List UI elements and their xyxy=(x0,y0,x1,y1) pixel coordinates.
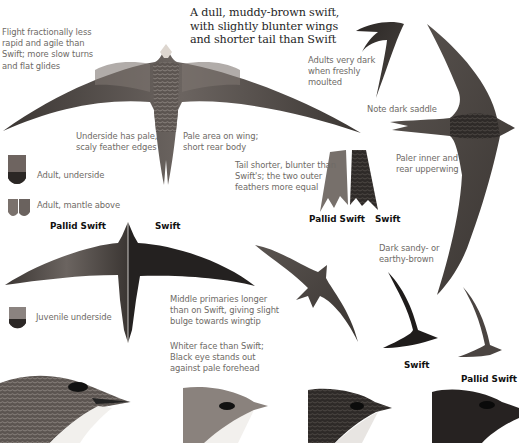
adult-mantle-swatch xyxy=(8,199,30,216)
label-tail-swift: Swift xyxy=(375,214,401,224)
caption-flight: Flight fractionally less rapid and agile… xyxy=(2,27,93,72)
juvenile-underside-swatch xyxy=(9,307,26,328)
caption-whiter-face: Whiter face than Swift; Black eye stands… xyxy=(170,341,264,375)
adult-underside-swatch xyxy=(8,155,26,184)
caption-adult-underside: Adult, underside xyxy=(37,170,104,181)
pallid-swift-head-pale xyxy=(183,387,268,443)
pallid-swift-silhouette xyxy=(458,287,502,357)
caption-dark-saddle: Note dark saddle xyxy=(367,104,437,115)
caption-dark-sandy: Dark sandy- or earthy-brown xyxy=(379,243,439,265)
label-tail-pallid-swift: Pallid Swift xyxy=(309,214,365,224)
caption-adult-mantle: Adult, mantle above xyxy=(37,200,120,211)
caption-middle-primaries: Middle primaries longer than on Swift, g… xyxy=(170,294,279,328)
pallid-swift-head-large xyxy=(0,376,131,443)
caption-tail-shorter: Tail shorter, blunter than Swift's; the … xyxy=(235,160,336,194)
label-split-swift: Swift xyxy=(155,221,181,231)
caption-adults-dark: Adults very dark when freshly moulted xyxy=(308,55,375,89)
caption-underside-scaly: Underside has pale, scaly feather edges xyxy=(76,131,157,153)
dark-swift-head xyxy=(432,390,519,443)
species-summary-title: A dull, muddy-brown swift, with slightly… xyxy=(190,6,339,47)
label-silhouette-swift: Swift xyxy=(404,360,430,370)
swift-head-scaled xyxy=(308,389,392,443)
label-split-pallid-swift: Pallid Swift xyxy=(50,221,106,231)
caption-paler-inner: Paler inner and rear upperwing xyxy=(396,153,459,175)
label-silhouette-pallid-swift: Pallid Swift xyxy=(461,374,517,384)
caption-juvenile-underside: Juvenile underside xyxy=(36,312,112,323)
caption-pale-area: Pale area on wing; short rear body xyxy=(183,131,258,153)
swift-silhouette xyxy=(383,272,438,348)
